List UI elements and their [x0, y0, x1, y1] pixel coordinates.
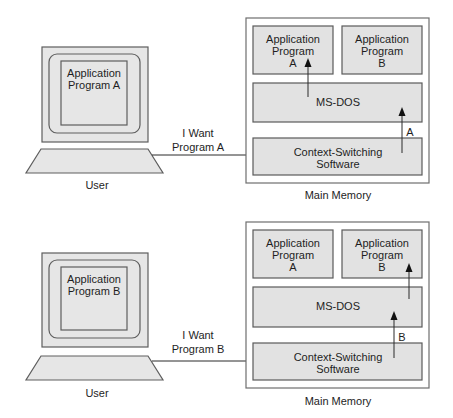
- msdos-label: MS-DOS: [316, 300, 360, 312]
- app-b-line1: Application: [355, 33, 409, 45]
- msdos-label: MS-DOS: [316, 96, 360, 108]
- app-b-line2: Program: [361, 249, 403, 261]
- context-line1: Context-Switching: [294, 146, 383, 158]
- context-line2: Software: [316, 363, 359, 375]
- app-b-line3: B: [378, 261, 385, 273]
- user-label: User: [85, 387, 109, 399]
- app-a-line1: Application: [266, 33, 320, 45]
- app-a-line1: Application: [266, 237, 320, 249]
- app-a-line2: Program: [272, 249, 314, 261]
- screen-text-line1: Application: [67, 273, 121, 285]
- main-memory-label: Main Memory: [305, 395, 372, 407]
- context-switching-diagram: Application Program A User I Want Progra…: [0, 0, 453, 418]
- user-label: User: [85, 179, 109, 191]
- main-memory: Application Program A Application Progra…: [246, 18, 429, 201]
- app-b-line1: Application: [355, 237, 409, 249]
- arrow-label: B: [398, 331, 405, 343]
- request-label-line1: I Want: [182, 127, 213, 139]
- request-label-line1: I Want: [182, 329, 213, 341]
- main-memory: Application Program A Application Progra…: [246, 222, 429, 407]
- main-memory-label: Main Memory: [305, 189, 372, 201]
- screen-text-line1: Application: [67, 67, 121, 79]
- app-b-line2: Program: [361, 45, 403, 57]
- app-a-line3: A: [289, 261, 297, 273]
- screen-text-line2: Program B: [68, 285, 121, 297]
- user-computer: Application Program B User: [26, 253, 163, 399]
- request-label-line2: Program A: [172, 141, 225, 153]
- request-label-line2: Program B: [172, 343, 225, 355]
- app-a-line2: Program: [272, 45, 314, 57]
- keyboard: [26, 149, 163, 173]
- app-b-line3: B: [378, 57, 385, 69]
- context-line2: Software: [316, 158, 359, 170]
- user-computer: Application Program A User: [26, 47, 163, 191]
- screen-text-line2: Program A: [68, 79, 121, 91]
- app-a-line3: A: [289, 57, 297, 69]
- panel-program-b: Application Program B User I Want Progra…: [26, 222, 429, 407]
- arrow-label: A: [406, 126, 414, 138]
- context-line1: Context-Switching: [294, 351, 383, 363]
- keyboard: [26, 356, 163, 380]
- panel-program-a: Application Program A User I Want Progra…: [26, 18, 429, 201]
